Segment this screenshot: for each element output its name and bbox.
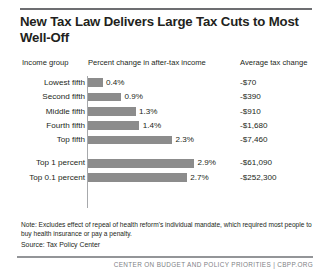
row-group-spacer (0, 147, 330, 156)
chart-row: Top 1 percent2.9%-$61,090 (0, 156, 330, 170)
footer-attribution: CENTER ON BUDGET AND POLICY PRIORITIES |… (114, 261, 313, 268)
bar-track: 2.3% (88, 133, 330, 147)
bar-value-label: 2.7% (190, 173, 208, 183)
row-label: Top 0.1 percent (0, 173, 85, 183)
header-percent-change: Percent change in after-tax income (88, 58, 206, 67)
row-label: Middle fifth (0, 107, 85, 117)
bar-value-label: 1.4% (143, 121, 161, 131)
page-title: New Tax Law Delivers Large Tax Cuts to M… (20, 14, 310, 45)
bar-value-label: 0.9% (124, 92, 142, 102)
bar-track: 2.7% (88, 171, 330, 185)
bar (88, 107, 136, 116)
average-tax-change-value: -$252,300 (240, 173, 276, 183)
bar-track: 0.4% (88, 76, 330, 90)
chart-rows: Lowest fifth0.4%-$70Second fifth0.9%-$39… (0, 76, 330, 185)
chart-row: Fourth fifth1.4%-$1,680 (0, 119, 330, 133)
bar (88, 159, 194, 168)
chart-row: Middle fifth1.3%-$910 (0, 105, 330, 119)
bar-track: 0.9% (88, 90, 330, 104)
bar (88, 121, 139, 130)
chart-row: Top fifth2.3%-$7,460 (0, 133, 330, 147)
bar-value-label: 2.3% (176, 135, 194, 145)
bar-track: 2.9% (88, 156, 330, 170)
top-divider (20, 8, 312, 10)
chart-source: Source: Tax Policy Center (21, 241, 100, 250)
row-label: Fourth fifth (0, 121, 85, 131)
average-tax-change-value: -$7,460 (240, 135, 267, 145)
row-label: Top fifth (0, 135, 85, 145)
average-tax-change-value: -$390 (240, 92, 261, 102)
footer-divider (17, 256, 313, 258)
average-tax-change-value: -$70 (240, 78, 256, 88)
bar (88, 93, 121, 102)
bar-value-label: 2.9% (198, 158, 216, 168)
row-label: Lowest fifth (0, 78, 85, 88)
average-tax-change-value: -$61,090 (240, 158, 272, 168)
bar (88, 173, 187, 182)
row-label: Top 1 percent (0, 158, 85, 168)
bar-track: 1.3% (88, 105, 330, 119)
header-income-group: Income group (22, 58, 68, 67)
bar (88, 78, 103, 87)
average-tax-change-value: -$910 (240, 107, 261, 117)
chart-row: Top 0.1 percent2.7%-$252,300 (0, 171, 330, 185)
chart-note: Note: Excludes effect of repeal of healt… (21, 221, 313, 238)
chart-row: Lowest fifth0.4%-$70 (0, 76, 330, 90)
bar (88, 136, 172, 145)
average-tax-change-value: -$1,680 (240, 121, 267, 131)
header-average-change: Average tax change (240, 58, 307, 67)
column-headers: Income group Percent change in after-tax… (0, 57, 330, 71)
bar-track: 1.4% (88, 119, 330, 133)
chart-figure: New Tax Law Delivers Large Tax Cuts to M… (0, 0, 330, 277)
row-label: Second fifth (0, 92, 85, 102)
chart-row: Second fifth0.9%-$390 (0, 90, 330, 104)
bar-value-label: 1.3% (139, 107, 157, 117)
bar-value-label: 0.4% (106, 78, 124, 88)
